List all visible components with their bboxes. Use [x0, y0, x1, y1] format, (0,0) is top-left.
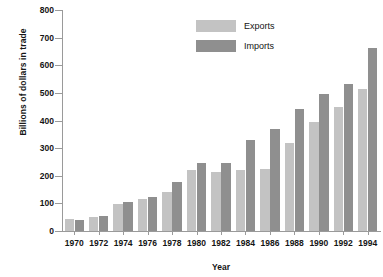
bar-exports-1984: [236, 170, 245, 231]
y-tick-200: [55, 176, 62, 177]
y-tick-label-700: 700: [24, 34, 54, 42]
x-tick-1980: [197, 231, 198, 235]
y-tick-label-200: 200: [24, 172, 54, 180]
y-tick-300: [55, 148, 62, 149]
bar-imports-1992: [344, 84, 353, 231]
y-axis-line: [62, 10, 63, 232]
bar-imports-1976: [148, 197, 157, 231]
x-tick-1992: [343, 231, 344, 235]
bar-exports-1972: [89, 217, 98, 231]
y-tick-600: [55, 65, 62, 66]
y-tick-100: [55, 203, 62, 204]
x-tick-1994: [368, 231, 369, 235]
bar-exports-1976: [138, 199, 147, 231]
x-axis-title: Year: [62, 262, 380, 272]
y-tick-400: [55, 121, 62, 122]
bar-chart: Billions of dollars in trade 01002003004…: [0, 0, 383, 277]
legend-label-exports: Exports: [244, 20, 275, 32]
x-tick-1988: [294, 231, 295, 235]
y-tick-label-400: 400: [24, 117, 54, 125]
bar-exports-1978: [162, 192, 171, 232]
bar-exports-1994: [358, 89, 367, 231]
bar-exports-1988: [285, 143, 294, 231]
bar-exports-1990: [309, 122, 318, 231]
bar-exports-1980: [187, 170, 196, 231]
bar-imports-1978: [172, 182, 181, 231]
x-tick-1978: [172, 231, 173, 235]
bar-exports-1970: [65, 219, 74, 231]
bar-imports-1994: [368, 48, 377, 231]
bar-imports-1974: [123, 202, 132, 231]
bar-exports-1982: [211, 172, 220, 231]
bar-imports-1984: [246, 140, 255, 231]
x-tick-1982: [221, 231, 222, 235]
imports-swatch-icon: [196, 40, 236, 52]
bar-imports-1970: [75, 220, 84, 231]
bar-imports-1980: [197, 163, 206, 231]
exports-swatch-icon: [196, 20, 236, 32]
legend-label-imports: Imports: [244, 40, 274, 52]
bar-exports-1986: [260, 169, 269, 231]
x-tick-1984: [245, 231, 246, 235]
y-tick-800: [55, 10, 62, 11]
bar-imports-1986: [270, 129, 279, 231]
bar-imports-1988: [295, 109, 304, 231]
y-tick-label-300: 300: [24, 144, 54, 152]
y-tick-label-0: 0: [24, 227, 54, 235]
x-tick-1974: [123, 231, 124, 235]
bar-exports-1974: [113, 204, 122, 231]
x-tick-label-1994: 1994: [348, 238, 383, 248]
x-tick-1990: [319, 231, 320, 235]
x-tick-1976: [148, 231, 149, 235]
x-tick-1970: [74, 231, 75, 235]
y-tick-label-500: 500: [24, 89, 54, 97]
y-axis-title: Billions of dollars in trade: [18, 7, 28, 157]
y-tick-500: [55, 93, 62, 94]
bar-imports-1972: [99, 216, 108, 231]
y-tick-label-100: 100: [24, 199, 54, 207]
y-tick-label-800: 800: [24, 6, 54, 14]
x-tick-1986: [270, 231, 271, 235]
bar-exports-1992: [334, 107, 343, 231]
y-tick-700: [55, 38, 62, 39]
bar-imports-1982: [221, 163, 230, 231]
x-tick-1972: [99, 231, 100, 235]
y-tick-0: [55, 231, 62, 232]
bar-imports-1990: [319, 94, 328, 231]
y-tick-label-600: 600: [24, 61, 54, 69]
